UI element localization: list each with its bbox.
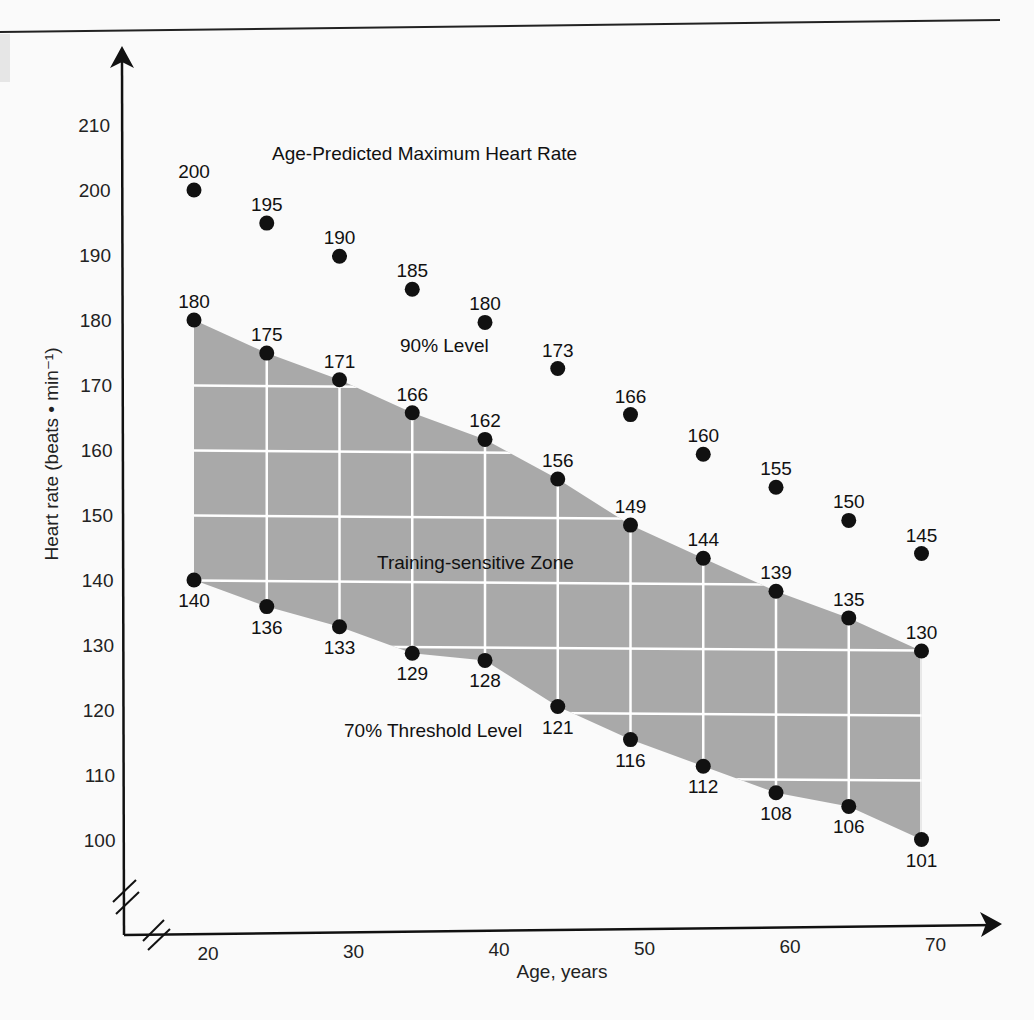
data-point-label: 180 <box>178 291 210 312</box>
data-point <box>332 619 347 634</box>
y-tick-labels: 100110120130140150160170180190200210 <box>78 115 115 851</box>
data-point <box>841 799 856 814</box>
y-tick-label: 130 <box>82 635 114 656</box>
data-point <box>769 584 784 599</box>
x-tick-labels: 203040506070 <box>197 934 946 964</box>
data-point-label: 130 <box>906 622 938 643</box>
annotation-70-level: 70% Threshold Level <box>344 720 522 741</box>
data-point-label: 149 <box>615 496 647 517</box>
data-point <box>914 546 929 561</box>
data-point <box>332 372 347 387</box>
data-point-label: 133 <box>324 637 356 658</box>
data-point <box>332 249 347 264</box>
data-point <box>696 447 711 462</box>
data-point-label: 144 <box>687 529 719 550</box>
y-tick-label: 150 <box>81 505 113 526</box>
y-axis <box>122 62 124 935</box>
y-tick-label: 120 <box>83 700 115 721</box>
data-point-label: 101 <box>906 850 938 871</box>
y-axis-title: Heart rate (beats • min⁻¹) <box>41 347 62 560</box>
data-point-label: 150 <box>833 491 865 512</box>
data-point-label: 106 <box>833 816 865 837</box>
data-point <box>405 282 420 297</box>
data-point-label: 175 <box>251 324 283 345</box>
x-tick-label: 50 <box>634 938 655 959</box>
data-point <box>841 610 856 625</box>
x-tick-label: 20 <box>197 943 218 964</box>
data-point-label: 166 <box>615 386 647 407</box>
y-tick-label: 200 <box>79 180 111 201</box>
data-point <box>550 361 565 376</box>
data-point <box>550 699 565 714</box>
data-point-label: 173 <box>542 340 574 361</box>
data-point-label: 140 <box>178 590 210 611</box>
data-point-label: 156 <box>542 450 574 471</box>
data-point-label: 155 <box>760 458 792 479</box>
x-tick-label: 40 <box>488 939 509 960</box>
x-axis <box>124 925 996 935</box>
data-point <box>769 785 784 800</box>
data-point-label: 195 <box>251 194 283 215</box>
data-point-label: 162 <box>469 410 501 431</box>
data-point-label: 121 <box>542 717 574 738</box>
data-point-label: 128 <box>469 670 501 691</box>
x-tick-label: 60 <box>779 936 800 957</box>
x-axis-title: Age, years <box>517 961 608 982</box>
corner-tab <box>0 34 10 82</box>
annotation-training-zone: Training-sensitive Zone <box>377 552 574 573</box>
data-point-label: 185 <box>396 260 428 281</box>
data-point-label: 129 <box>396 663 428 684</box>
data-point-label: 108 <box>760 803 792 824</box>
data-point <box>914 644 929 659</box>
y-tick-label: 190 <box>79 245 111 266</box>
data-point <box>769 480 784 495</box>
data-point <box>187 313 202 328</box>
data-point <box>405 646 420 661</box>
data-point <box>623 518 638 533</box>
y-axis-break-icon <box>113 880 139 914</box>
data-point-label: 180 <box>469 293 501 314</box>
annotation-max-hr: Age-Predicted Maximum Heart Rate <box>272 143 577 164</box>
data-point-label: 166 <box>396 384 428 405</box>
data-point-label: 116 <box>615 750 645 771</box>
data-point <box>623 732 638 747</box>
y-tick-label: 140 <box>82 570 114 591</box>
data-point-label: 135 <box>833 589 865 610</box>
data-point-label: 190 <box>324 227 356 248</box>
data-point <box>478 432 493 447</box>
data-point <box>478 653 493 668</box>
y-tick-label: 100 <box>84 830 116 851</box>
data-point-label: 112 <box>688 776 718 797</box>
y-tick-label: 180 <box>80 310 112 331</box>
y-tick-label: 160 <box>81 440 113 461</box>
y-tick-label: 210 <box>78 115 110 136</box>
data-point-label: 145 <box>906 525 938 546</box>
data-point <box>478 315 493 330</box>
data-point <box>914 832 929 847</box>
data-point <box>259 599 274 614</box>
data-point <box>623 407 638 422</box>
heart-rate-chart: 100110120130140150160170180190200210 203… <box>0 0 1034 1020</box>
data-point-label: 200 <box>178 161 210 182</box>
x-tick-label: 30 <box>343 941 364 962</box>
data-point-label: 136 <box>251 617 283 638</box>
data-point <box>550 472 565 487</box>
data-point <box>405 405 420 420</box>
y-tick-label: 170 <box>80 375 112 396</box>
data-point <box>696 551 711 566</box>
data-point <box>187 183 202 198</box>
data-point <box>841 513 856 528</box>
data-point <box>187 573 202 588</box>
data-point-label: 139 <box>760 562 792 583</box>
data-point-label: 171 <box>324 351 356 372</box>
data-point <box>259 216 274 231</box>
data-point <box>696 759 711 774</box>
data-point-label: 160 <box>687 425 719 446</box>
x-tick-label: 70 <box>925 934 946 955</box>
annotation-90-level: 90% Level <box>400 335 489 356</box>
top-rule <box>0 20 1000 32</box>
y-tick-label: 110 <box>85 765 115 786</box>
data-point <box>259 346 274 361</box>
